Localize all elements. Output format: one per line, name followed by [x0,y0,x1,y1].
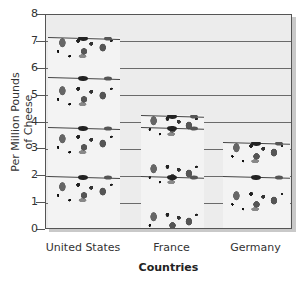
cheese-top-edge [48,37,120,40]
cheese-slice-edge [48,176,120,179]
y-tick-label: 5 [28,89,38,100]
y-tick-label: 1 [28,196,38,207]
x-tick-label: Germany [211,241,301,254]
x-tick-label: France [127,241,217,254]
cheese-slice-edge [141,176,204,179]
bar-france [141,115,204,228]
cheese-top-edge [141,115,204,118]
cheese-slice-edge [48,77,120,80]
y-tick-label: 0 [28,223,38,234]
cheese-slice-edge [141,127,204,130]
bar-germany [223,142,290,228]
cheese-top-edge [223,142,290,145]
y-tick-label: 7 [28,35,38,46]
y-tick-label: 2 [28,169,38,180]
x-axis-title: Countries [45,261,292,274]
y-tick-label: 6 [28,62,38,73]
y-tick-label: 4 [28,116,38,127]
y-tick-label: 3 [28,142,38,153]
cheese-slice-edge [48,127,120,130]
y-axis-title-line-1: Per Million Pounds [9,72,22,172]
x-tick-label: United States [38,241,128,254]
bar-united-states [48,37,120,228]
plot-area [45,14,292,229]
y-tick-label: 8 [28,8,38,19]
cheese-slice-edge [223,176,290,179]
